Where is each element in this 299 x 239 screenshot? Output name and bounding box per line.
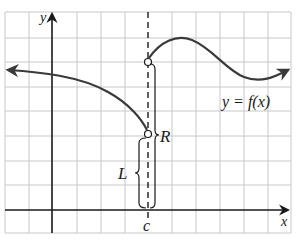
- function-graph: y x R L c y = f(x): [0, 0, 299, 239]
- label-c: c: [143, 217, 150, 234]
- label-L: L: [117, 164, 127, 183]
- right-branch-curve: [149, 38, 288, 80]
- label-R: R: [159, 127, 171, 146]
- y-axis-label: y: [38, 10, 47, 25]
- x-axis-label: x: [280, 214, 288, 229]
- open-circle-left-limit: [145, 131, 152, 138]
- function-label: y = f(x): [220, 93, 270, 111]
- brace-L: [135, 138, 146, 208]
